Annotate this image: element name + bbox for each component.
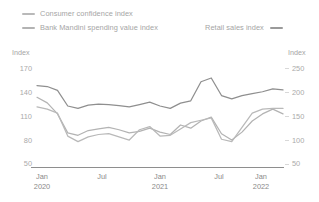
series-line-consumer-confidence-index (37, 107, 283, 142)
x-tick-year: 2020 (22, 182, 62, 192)
series-line-bank-mandini-spending-value-index (37, 97, 283, 140)
x-tick-month: Jan (36, 172, 48, 181)
chart-container: Consumer confidence index Bank Mandini s… (0, 0, 319, 202)
x-axis-tick-jul-2020: Jul (82, 172, 122, 182)
x-tick-month: Jan (154, 172, 166, 181)
x-axis-tick-jul-2021: Jul (199, 172, 239, 182)
series-line-retail-sales-index (37, 78, 283, 108)
x-tick-month: Jul (214, 172, 223, 181)
x-axis-tick-jan-2020: Jan 2020 (22, 172, 62, 192)
x-tick-month: Jan (255, 172, 267, 181)
x-tick-year: 2022 (241, 182, 281, 192)
x-axis-line (31, 167, 284, 168)
x-axis-tick-jan-2022: Jan 2022 (241, 172, 281, 192)
x-axis-tick-jan-2021: Jan 2021 (140, 172, 180, 192)
x-tick-year: 2021 (140, 182, 180, 192)
x-tick-month: Jul (97, 172, 106, 181)
